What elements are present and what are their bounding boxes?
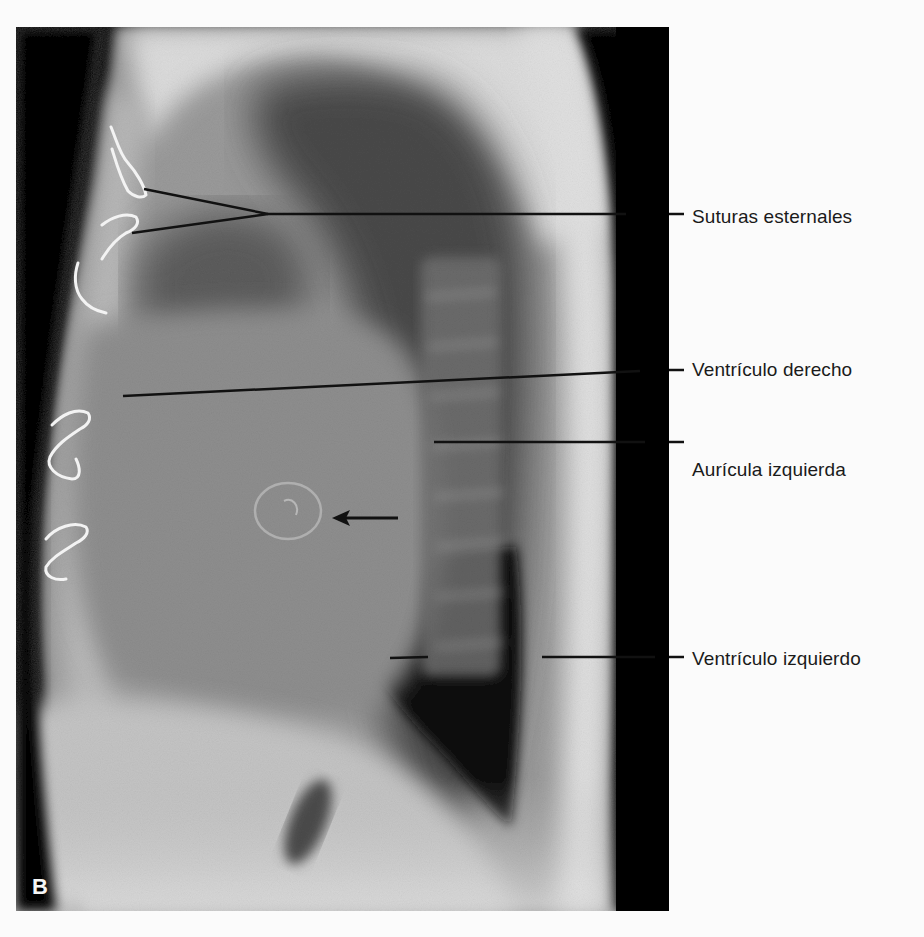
- xray-rendering: [16, 27, 669, 911]
- label-right-ventricle: Ventrículo derecho: [692, 359, 852, 381]
- panel-letter: B: [32, 875, 48, 899]
- label-left-ventricle: Ventrículo izquierdo: [692, 648, 861, 670]
- label-left-atrium: Aurícula izquierda: [692, 459, 846, 481]
- chest-xray-lateral-image: [16, 27, 669, 911]
- label-sternal-sutures: Suturas esternales: [692, 206, 852, 228]
